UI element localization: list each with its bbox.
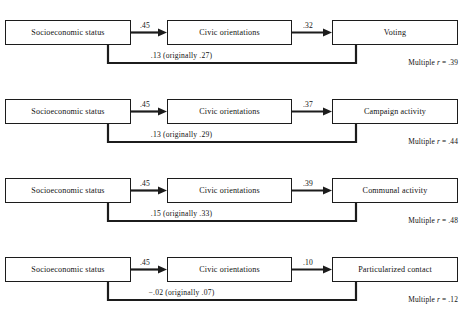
node-socioeconomic-status: Socioeconomic status [5,178,131,203]
multiple-r-value: .12 [448,295,458,304]
coefficient-ses-to-civic: .45 [140,100,150,109]
coefficient-civic-to-outcome: .32 [303,21,313,30]
multiple-r-statistic: Multiple r = .39 [408,58,458,67]
path-diagram-block: Socioeconomic status Civic orientations … [0,79,463,158]
coefficient-direct-effect: .15 (originally .33) [0,209,463,218]
path-diagram-block: Socioeconomic status Civic orientations … [0,0,463,79]
path-diagram-set: Socioeconomic status Civic orientations … [0,0,463,316]
node-civic-orientations: Civic orientations [167,178,292,203]
node-socioeconomic-status: Socioeconomic status [5,99,131,124]
multiple-r-value: .39 [448,58,458,67]
node-label: Socioeconomic status [31,107,104,116]
node-label: Campaign activity [364,107,426,116]
coefficient-direct-effect: −.02 (originally .07) [0,288,463,297]
path-diagram-block: Socioeconomic status Civic orientations … [0,158,463,237]
coefficient-ses-to-civic: .45 [140,21,150,30]
node-outcome: Communal activity [332,178,458,203]
multiple-r-prefix: Multiple [408,58,437,67]
node-label: Communal activity [363,186,428,195]
node-outcome: Campaign activity [332,99,458,124]
node-socioeconomic-status: Socioeconomic status [5,257,131,282]
coefficient-direct-effect: .13 (originally .27) [0,51,463,60]
node-label: Socioeconomic status [31,265,104,274]
node-civic-orientations: Civic orientations [167,99,292,124]
coefficient-civic-to-outcome: .39 [303,179,313,188]
coefficient-ses-to-civic: .45 [140,258,150,267]
multiple-r-prefix: Multiple [408,295,437,304]
node-label: Civic orientations [199,186,259,195]
coefficient-direct-effect: .13 (originally .29) [0,130,463,139]
multiple-r-statistic: Multiple r = .12 [408,295,458,304]
node-label: Civic orientations [199,28,259,37]
node-civic-orientations: Civic orientations [167,257,292,282]
node-label: Socioeconomic status [31,186,104,195]
node-label: Socioeconomic status [31,28,104,37]
node-label: Civic orientations [199,265,259,274]
coefficient-ses-to-civic: .45 [140,179,150,188]
multiple-r-value: .48 [448,216,458,225]
node-label: Civic orientations [199,107,259,116]
multiple-r-statistic: Multiple r = .44 [408,137,458,146]
coefficient-civic-to-outcome: .10 [303,258,313,267]
coefficient-civic-to-outcome: .37 [303,100,313,109]
multiple-r-prefix: Multiple [408,216,437,225]
multiple-r-statistic: Multiple r = .48 [408,216,458,225]
node-label: Particularized contact [358,265,432,274]
node-label: Voting [384,28,406,37]
node-socioeconomic-status: Socioeconomic status [5,20,131,45]
node-civic-orientations: Civic orientations [167,20,292,45]
multiple-r-prefix: Multiple [408,137,437,146]
node-outcome: Voting [332,20,458,45]
path-diagram-block: Socioeconomic status Civic orientations … [0,237,463,316]
multiple-r-value: .44 [448,137,458,146]
node-outcome: Particularized contact [332,257,458,282]
